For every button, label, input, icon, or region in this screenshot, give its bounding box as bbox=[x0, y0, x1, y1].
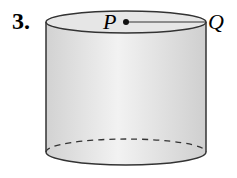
label-q: Q bbox=[208, 9, 224, 34]
point-p-dot bbox=[123, 19, 129, 25]
cylinder-figure: 3. P Q bbox=[0, 0, 237, 178]
problem-number: 3. bbox=[12, 8, 30, 34]
label-p: P bbox=[102, 9, 116, 34]
cylinder-body bbox=[46, 11, 206, 165]
